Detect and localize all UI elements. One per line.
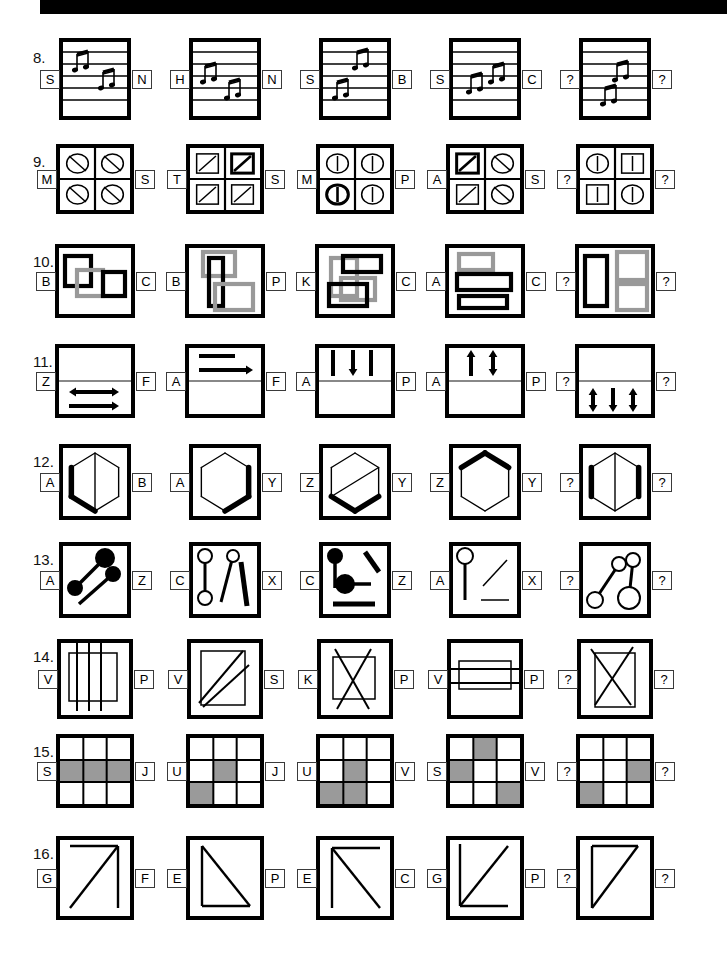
figure-left-label[interactable]: S [40,70,60,89]
figure-right-label[interactable]: Y [262,473,282,492]
figure-left-label[interactable]: S [37,762,57,781]
figure-left-label[interactable]: U [167,762,187,781]
figure-cell[interactable]: EC [290,832,420,932]
figure-cell[interactable]: KP [290,635,420,735]
figure-left-label[interactable]: A [296,372,316,391]
figure-right-label[interactable]: Z [132,571,152,590]
figure-cell[interactable]: SJ [30,730,160,830]
figure-right-label[interactable]: C [136,272,156,291]
figure-right-label[interactable]: S [264,670,284,689]
figure-cell[interactable]: AY [160,440,290,540]
figure-cell[interactable]: HN [160,34,290,134]
figure-left-label[interactable]: A [166,372,186,391]
figure-left-label[interactable]: ? [557,762,577,781]
figure-right-label[interactable]: S [265,170,285,189]
figure-right-label[interactable]: P [265,869,285,888]
figure-cell[interactable]: ?? [550,538,680,638]
figure-right-label[interactable]: ? [655,170,675,189]
figure-right-label[interactable]: P [524,670,544,689]
figure-left-label[interactable]: K [296,272,316,291]
figure-right-label[interactable]: ? [652,70,672,89]
figure-cell[interactable]: ?? [550,635,680,735]
figure-left-label[interactable]: A [430,571,450,590]
figure-right-label[interactable]: F [136,372,156,391]
figure-right-label[interactable]: C [395,869,415,888]
figure-right-label[interactable]: Z [392,571,412,590]
figure-left-label[interactable]: B [166,272,186,291]
figure-left-label[interactable]: H [170,70,190,89]
figure-right-label[interactable]: P [395,170,415,189]
figure-cell[interactable]: ZY [290,440,420,540]
figure-right-label[interactable]: B [392,70,412,89]
figure-left-label[interactable]: E [297,869,317,888]
figure-cell[interactable]: ?? [550,34,680,134]
figure-cell[interactable]: AP [420,340,550,440]
figure-right-label[interactable]: N [132,70,152,89]
figure-right-label[interactable]: J [265,762,285,781]
figure-cell[interactable]: MP [290,140,420,240]
figure-cell[interactable]: ?? [550,730,680,830]
figure-right-label[interactable]: P [266,272,286,291]
figure-left-label[interactable]: ? [557,869,577,888]
figure-cell[interactable]: SN [30,34,160,134]
figure-right-label[interactable]: ? [656,372,676,391]
figure-right-label[interactable]: S [525,170,545,189]
figure-cell[interactable]: ?? [550,340,680,440]
figure-left-label[interactable]: Z [300,473,320,492]
figure-left-label[interactable]: ? [560,70,580,89]
figure-right-label[interactable]: J [135,762,155,781]
figure-cell[interactable]: BC [30,240,160,340]
figure-cell[interactable]: GF [30,832,160,932]
figure-right-label[interactable]: C [522,70,542,89]
figure-cell[interactable]: BP [160,240,290,340]
figure-left-label[interactable]: A [170,473,190,492]
figure-cell[interactable]: ZY [420,440,550,540]
figure-right-label[interactable]: ? [656,272,676,291]
figure-right-label[interactable]: Y [392,473,412,492]
figure-left-label[interactable]: A [427,170,447,189]
figure-cell[interactable]: SB [290,34,420,134]
figure-right-label[interactable]: P [396,372,416,391]
figure-right-label[interactable]: B [132,473,152,492]
figure-left-label[interactable]: A [40,571,60,590]
figure-cell[interactable]: AF [160,340,290,440]
figure-left-label[interactable]: ? [556,372,576,391]
figure-right-label[interactable]: ? [652,571,672,590]
figure-left-label[interactable]: T [167,170,187,189]
figure-left-label[interactable]: V [38,670,58,689]
figure-left-label[interactable]: ? [557,170,577,189]
figure-left-label[interactable]: S [427,762,447,781]
figure-right-label[interactable]: V [395,762,415,781]
figure-cell[interactable]: AC [420,240,550,340]
figure-cell[interactable]: TS [160,140,290,240]
figure-left-label[interactable]: C [170,571,190,590]
figure-left-label[interactable]: U [297,762,317,781]
figure-left-label[interactable]: ? [560,473,580,492]
figure-right-label[interactable]: N [262,70,282,89]
figure-cell[interactable]: VP [420,635,550,735]
figure-left-label[interactable]: C [300,571,320,590]
figure-left-label[interactable]: M [297,170,317,189]
figure-right-label[interactable]: F [135,869,155,888]
figure-right-label[interactable]: P [525,869,545,888]
figure-left-label[interactable]: A [40,473,60,492]
figure-left-label[interactable]: Z [36,372,56,391]
figure-cell[interactable]: ?? [550,240,680,340]
figure-left-label[interactable]: K [298,670,318,689]
figure-cell[interactable]: AZ [30,538,160,638]
figure-cell[interactable]: SV [420,730,550,830]
figure-cell[interactable]: ?? [550,832,680,932]
figure-right-label[interactable]: ? [655,869,675,888]
figure-cell[interactable]: AB [30,440,160,540]
figure-cell[interactable]: ?? [550,140,680,240]
figure-cell[interactable]: ?? [550,440,680,540]
figure-right-label[interactable]: C [526,272,546,291]
figure-right-label[interactable]: ? [655,762,675,781]
figure-left-label[interactable]: Z [430,473,450,492]
figure-left-label[interactable]: M [37,170,57,189]
figure-cell[interactable]: MS [30,140,160,240]
figure-cell[interactable]: ZF [30,340,160,440]
figure-left-label[interactable]: E [167,869,187,888]
figure-right-label[interactable]: P [526,372,546,391]
figure-cell[interactable]: UJ [160,730,290,830]
